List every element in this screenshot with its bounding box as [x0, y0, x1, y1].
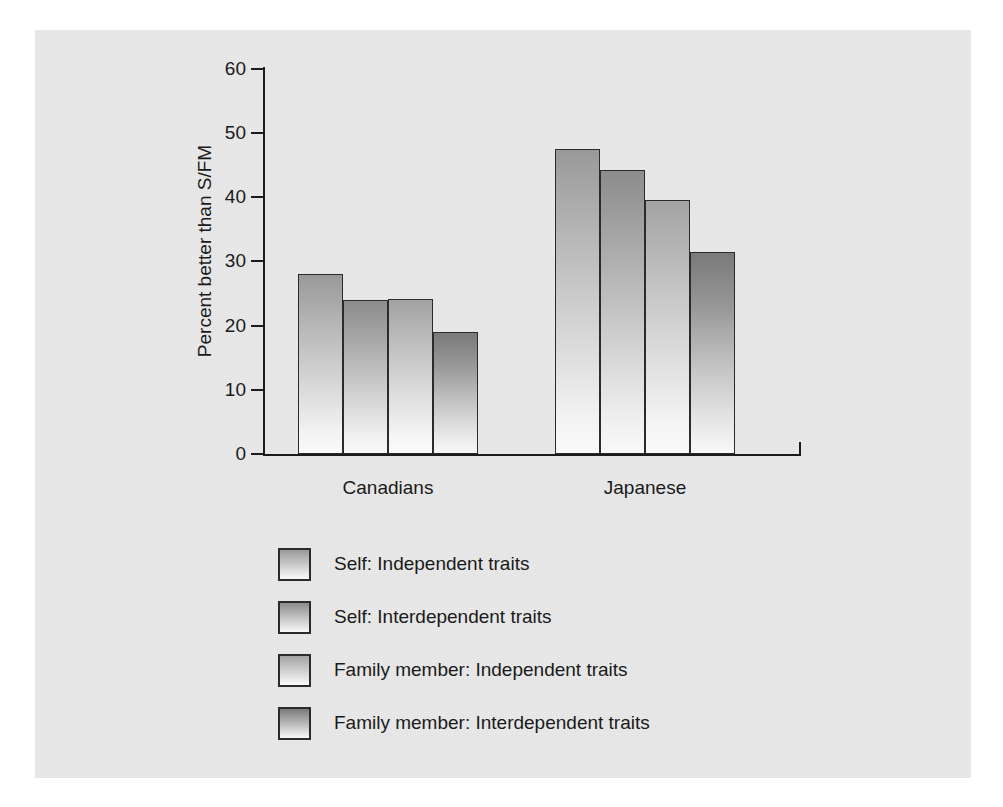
bar: [645, 200, 690, 454]
y-axis-tick: [251, 325, 264, 327]
y-axis-tick: [251, 196, 264, 198]
y-axis-tick: [251, 453, 264, 455]
y-axis-tick: [251, 260, 264, 262]
legend-item-label: Family member: Interdependent traits: [334, 712, 650, 734]
x-axis-end-cap: [799, 442, 801, 456]
y-axis-tick: [251, 389, 264, 391]
x-axis-group-label: Japanese: [545, 477, 745, 499]
bar: [433, 332, 478, 454]
legend-item-label: Self: Independent traits: [334, 553, 529, 575]
figure-container: 0102030405060 Percent better than S/FM C…: [0, 0, 1003, 807]
bar: [600, 170, 645, 454]
legend-swatch: [278, 548, 311, 581]
legend-item-label: Self: Interdependent traits: [334, 606, 552, 628]
bar: [298, 274, 343, 454]
legend-swatch: [278, 601, 311, 634]
bar: [690, 252, 735, 454]
bar: [388, 299, 433, 454]
legend-item-label: Family member: Independent traits: [334, 659, 628, 681]
y-axis-tick: [251, 132, 264, 134]
plot-area: 0102030405060 Percent better than S/FM C…: [0, 0, 1003, 807]
bar: [555, 149, 600, 454]
y-axis-tick: [251, 68, 264, 70]
legend-swatch: [278, 707, 311, 740]
x-axis-line: [263, 454, 801, 456]
x-axis-group-label: Canadians: [288, 477, 488, 499]
legend-swatch: [278, 654, 311, 687]
y-axis-title: Percent better than S/FM: [194, 41, 216, 461]
bar: [343, 300, 388, 454]
